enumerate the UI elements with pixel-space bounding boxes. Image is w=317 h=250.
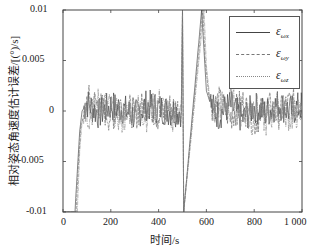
x-tick-label: 200 (103, 216, 118, 227)
legend-line-dashed (236, 54, 270, 55)
legend-item: εωy (236, 47, 296, 61)
x-tick-label: 400 (151, 216, 166, 227)
legend-label: εωy (276, 46, 289, 62)
chart: 0.01 0.005 0 -0.005 -0.01 0 200 400 600 … (0, 0, 317, 250)
x-tick-label: 800 (247, 216, 262, 227)
y-tick-label: 0.01 (30, 3, 48, 14)
y-tick-label: 0.005 (22, 53, 45, 64)
legend-line-solid (236, 32, 270, 33)
x-tick-label: 0 (61, 216, 66, 227)
y-tick-label: 0 (49, 104, 54, 115)
legend-label: εωx (276, 24, 289, 40)
y-axis-label: 相对姿态角速度估计误差/[(°)/s] (5, 21, 19, 201)
legend-label: εωz (276, 68, 288, 84)
legend-item: εωz (236, 69, 296, 83)
x-axis-label: 时间/s (150, 231, 179, 247)
legend: εωx εωy εωz (229, 16, 300, 89)
y-tick-label: -0.01 (26, 205, 47, 216)
legend-item: εωx (236, 25, 296, 39)
y-tick-label: -0.005 (18, 154, 44, 165)
legend-line-dashdot (236, 76, 270, 77)
x-tick-label: 1 000 (284, 216, 307, 227)
x-tick-label: 600 (199, 216, 214, 227)
